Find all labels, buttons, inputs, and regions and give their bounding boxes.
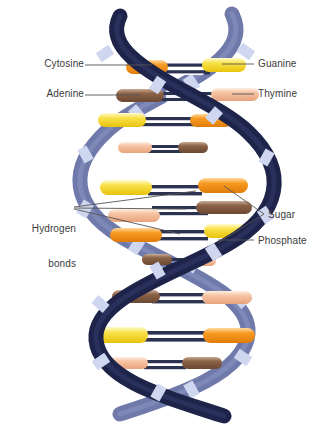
base-guanine [98,113,146,127]
base-pair-6 [108,201,252,222]
label-hydrogen-bonds: Hydrogen bonds [2,200,76,292]
base-guanine [202,58,246,72]
label-sugar: Sugar [268,209,328,221]
base-adenine [182,357,222,369]
label-hydrogen-bonds-line2: bonds [2,258,76,270]
base-cytosine [198,178,248,193]
label-adenine: Adenine [6,88,84,100]
base-adenine [196,201,252,214]
base-thymine [211,88,259,101]
base-thymine [118,142,152,153]
base-pair-11 [108,357,222,369]
label-thymine: Thymine [258,88,328,100]
label-phosphate: Phosphate [258,235,330,247]
base-adenine [178,142,208,153]
base-cytosine [203,328,255,343]
base-pair-5 [100,178,248,195]
base-pair-10 [90,327,255,343]
base-pairs [90,58,259,369]
label-cytosine: Cytosine [6,58,84,70]
label-hydrogen-bonds-line1: Hydrogen [2,223,76,235]
base-guanine [100,180,152,195]
label-guanine: Guanine [258,58,328,70]
base-thymine [202,291,252,304]
base-pair-4 [118,142,208,153]
dna-diagram: Cytosine Adenine Hydrogen bonds Guanine … [0,0,331,430]
base-thymine [108,209,160,222]
base-cytosine [110,228,162,242]
